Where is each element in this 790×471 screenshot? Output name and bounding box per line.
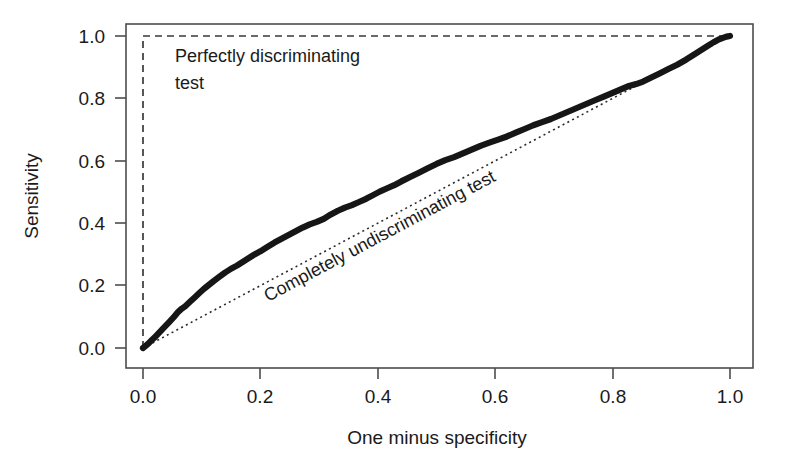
- roc-chart-page: 0.0 0.2 0.4 0.6 0.8 1.0 0.0 0.2 0.4 0.6 …: [0, 0, 790, 471]
- x-tick-label-4: 0.8: [600, 386, 626, 407]
- x-tick-label-0: 0.0: [130, 386, 156, 407]
- y-tick-label-4: 0.8: [79, 88, 105, 109]
- x-tick-label-1: 0.2: [247, 386, 273, 407]
- x-tick-label-5: 1.0: [717, 386, 743, 407]
- y-tick-label-3: 0.6: [79, 151, 105, 172]
- y-axis-title: Sensitivity: [21, 153, 42, 239]
- x-axis-ticks: [143, 368, 730, 379]
- roc-plot: 0.0 0.2 0.4 0.6 0.8 1.0 0.0 0.2 0.4 0.6 …: [0, 0, 790, 471]
- x-axis-title: One minus specificity: [347, 427, 527, 448]
- y-axis-ticks: [115, 36, 126, 348]
- y-tick-label-1: 0.2: [79, 275, 105, 296]
- y-tick-label-2: 0.4: [79, 213, 106, 234]
- undiscriminating-test-annotation: Completely undiscriminating test: [260, 166, 498, 305]
- y-tick-label-5: 1.0: [79, 26, 105, 47]
- roc-curve: [143, 36, 730, 348]
- x-tick-label-2: 0.4: [365, 386, 392, 407]
- perfect-test-annotation-line2: test: [175, 73, 204, 93]
- y-tick-label-0: 0.0: [79, 338, 105, 359]
- x-tick-label-3: 0.6: [482, 386, 508, 407]
- perfect-test-annotation-line1: Perfectly discriminating: [175, 46, 360, 66]
